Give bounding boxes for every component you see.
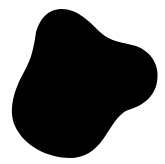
canvas [0, 0, 165, 164]
blob-icon [12, 9, 158, 158]
blob-shape [0, 0, 165, 164]
